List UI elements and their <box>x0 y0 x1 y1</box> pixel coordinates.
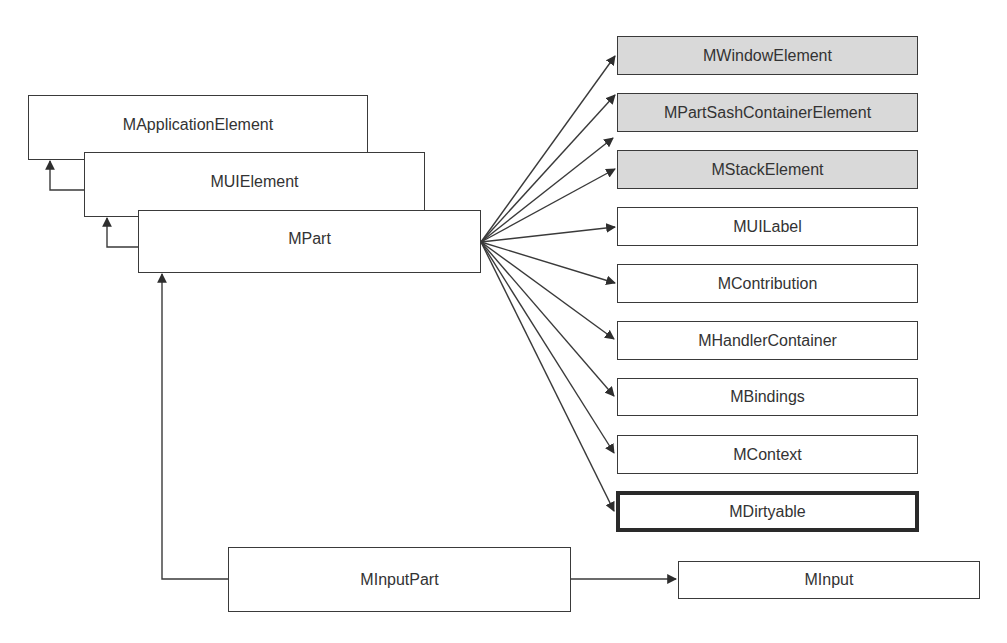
class-label: MPartSashContainerElement <box>664 104 871 122</box>
class-box-mpart: MPart <box>138 210 481 273</box>
class-box-mcontribution: MContribution <box>617 264 918 303</box>
class-label: MInput <box>805 571 854 589</box>
class-box-minputpart: MInputPart <box>228 547 571 612</box>
class-box-muilabel: MUILabel <box>617 207 918 246</box>
class-diagram: MApplicationElement MUIElement MPart MWi… <box>0 0 1007 643</box>
class-label: MDirtyable <box>729 503 805 521</box>
class-box-mpartsashcontainerelement: MPartSashContainerElement <box>617 93 918 132</box>
class-label: MUILabel <box>733 218 801 236</box>
class-box-minput: MInput <box>678 561 980 599</box>
class-box-mapplicationelement: MApplicationElement <box>28 95 368 160</box>
class-label: MBindings <box>730 388 805 406</box>
class-box-mdirtyable: MDirtyable <box>616 491 919 532</box>
class-label: MUIElement <box>210 173 298 191</box>
class-label: MApplicationElement <box>123 116 273 134</box>
class-box-mwindowelement: MWindowElement <box>617 36 918 75</box>
inherit-arrow-muielement <box>50 161 84 190</box>
class-label: MContribution <box>718 275 818 293</box>
class-label: MStackElement <box>711 161 823 179</box>
class-label: MInputPart <box>360 571 438 589</box>
class-box-mcontext: MContext <box>617 435 918 474</box>
inherit-arrow-mpart <box>107 218 138 247</box>
class-box-mhandlercontainer: MHandlerContainer <box>617 321 918 360</box>
class-box-mstackelement: MStackElement <box>617 150 918 189</box>
class-label: MContext <box>733 446 801 464</box>
class-box-muielement: MUIElement <box>84 152 425 217</box>
class-box-mbindings: MBindings <box>617 378 918 416</box>
class-label: MPart <box>288 230 331 248</box>
class-label: MWindowElement <box>703 47 832 65</box>
class-label: MHandlerContainer <box>698 332 837 350</box>
inherit-arrow-minputpart <box>162 274 228 579</box>
